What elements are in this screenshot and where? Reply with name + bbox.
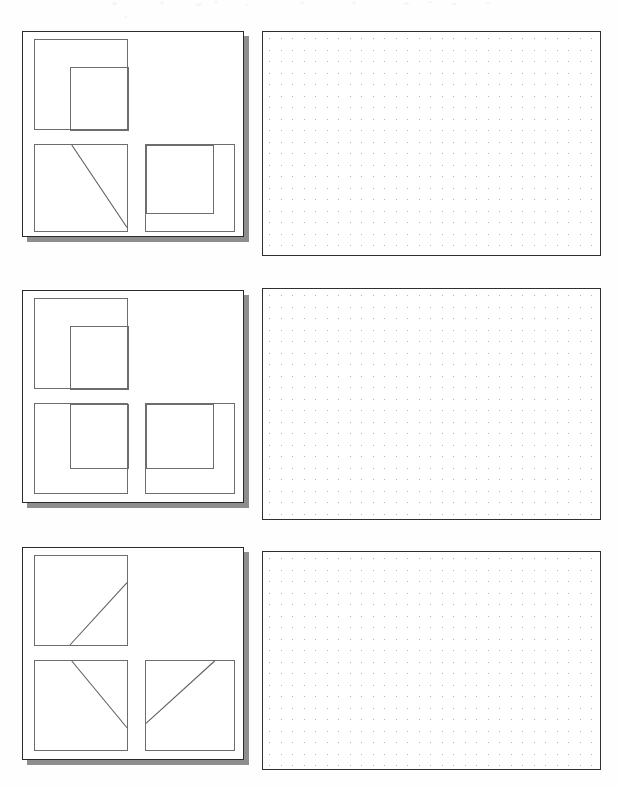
grid-dot	[476, 445, 477, 446]
grid-dot	[396, 593, 397, 594]
answer-dot-grid[interactable]	[262, 551, 601, 770]
grid-dot	[281, 153, 282, 154]
grid-dot	[465, 119, 466, 120]
grid-dot	[511, 307, 512, 308]
grid-dot	[407, 211, 408, 212]
grid-dot	[580, 211, 581, 212]
grid-dot	[327, 708, 328, 709]
grid-dot	[580, 222, 581, 223]
grid-dot	[522, 639, 523, 640]
grid-dot	[442, 754, 443, 755]
grid-dot	[304, 422, 305, 423]
grid-dot	[534, 318, 535, 319]
grid-dot	[292, 318, 293, 319]
diagram-card[interactable]	[22, 31, 244, 237]
grid-dot	[327, 696, 328, 697]
grid-dot	[476, 211, 477, 212]
grid-dot	[396, 61, 397, 62]
grid-dot	[373, 199, 374, 200]
grid-dot	[315, 410, 316, 411]
grid-dot	[269, 581, 270, 582]
grid-dot	[327, 245, 328, 246]
grid-dot	[292, 765, 293, 766]
grid-dot	[442, 410, 443, 411]
grid-dot	[511, 468, 512, 469]
grid-dot	[557, 176, 558, 177]
grid-dot	[453, 685, 454, 686]
grid-dot	[373, 754, 374, 755]
grid-dot	[350, 593, 351, 594]
grid-dot	[419, 502, 420, 503]
grid-dot	[430, 685, 431, 686]
diagram-card[interactable]	[22, 290, 244, 503]
grid-dot	[361, 153, 362, 154]
grid-dot	[292, 153, 293, 154]
grid-dot	[384, 295, 385, 296]
grid-dot	[384, 558, 385, 559]
grid-dot	[327, 662, 328, 663]
grid-dot	[304, 364, 305, 365]
grid-dot	[453, 650, 454, 651]
grid-dot	[430, 581, 431, 582]
grid-dot	[373, 376, 374, 377]
grid-dot	[269, 479, 270, 480]
grid-dot	[407, 639, 408, 640]
grid-dot	[419, 73, 420, 74]
grid-dot	[499, 662, 500, 663]
dot-grid-pattern	[263, 32, 600, 255]
grid-dot	[396, 708, 397, 709]
answer-dot-grid[interactable]	[262, 288, 601, 520]
grid-dot	[361, 84, 362, 85]
grid-dot	[591, 558, 592, 559]
grid-dot	[499, 639, 500, 640]
grid-dot	[499, 353, 500, 354]
grid-dot	[591, 96, 592, 97]
grid-dot	[350, 38, 351, 39]
grid-dot	[511, 433, 512, 434]
grid-dot	[315, 685, 316, 686]
grid-dot	[304, 731, 305, 732]
grid-dot	[315, 456, 316, 457]
grid-dot	[315, 222, 316, 223]
grid-dot	[361, 616, 362, 617]
worksheet-page	[0, 0, 619, 788]
grid-dot	[453, 639, 454, 640]
grid-dot	[269, 38, 270, 39]
grid-dot	[350, 96, 351, 97]
grid-dot	[373, 581, 374, 582]
diagram-card[interactable]	[22, 547, 244, 760]
grid-dot	[465, 188, 466, 189]
grid-dot	[476, 153, 477, 154]
grid-dot	[430, 593, 431, 594]
grid-dot	[419, 165, 420, 166]
grid-dot	[442, 719, 443, 720]
grid-dot	[522, 50, 523, 51]
grid-dot	[453, 295, 454, 296]
grid-dot	[281, 330, 282, 331]
grid-dot	[373, 765, 374, 766]
grid-dot	[315, 73, 316, 74]
grid-dot	[407, 50, 408, 51]
grid-dot	[281, 627, 282, 628]
grid-dot	[442, 616, 443, 617]
grid-dot	[373, 616, 374, 617]
grid-dot	[522, 119, 523, 120]
grid-dot	[442, 479, 443, 480]
grid-dot	[350, 295, 351, 296]
grid-dot	[315, 662, 316, 663]
grid-dot	[292, 364, 293, 365]
grid-dot	[511, 616, 512, 617]
scan-artifact	[196, 3, 202, 6]
grid-dot	[488, 142, 489, 143]
grid-dot	[430, 604, 431, 605]
grid-dot	[476, 662, 477, 663]
answer-dot-grid[interactable]	[262, 31, 601, 256]
grid-dot	[557, 514, 558, 515]
grid-dot	[465, 234, 466, 235]
grid-dot	[281, 731, 282, 732]
grid-dot	[281, 433, 282, 434]
grid-dot	[304, 593, 305, 594]
grid-dot	[511, 650, 512, 651]
grid-dot	[568, 650, 569, 651]
grid-dot	[488, 61, 489, 62]
